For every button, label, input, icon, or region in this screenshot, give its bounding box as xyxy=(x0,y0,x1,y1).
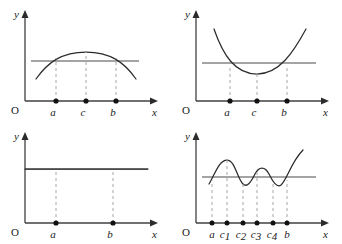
dot-a xyxy=(210,221,215,226)
tick-label-c2: c2 xyxy=(236,228,247,242)
tick-label-b: b xyxy=(284,228,290,240)
tick-label-c1: c1 xyxy=(220,228,230,242)
tick-label-a: a xyxy=(209,228,215,240)
x-axis-label: x xyxy=(322,106,328,118)
dot-b xyxy=(284,98,289,103)
tick-label-c: c xyxy=(81,106,86,118)
mean-value-theorem-figure: O y x a c b O y x a c xyxy=(0,0,342,244)
tick-label-a: a xyxy=(50,228,56,240)
origin-label: O xyxy=(182,104,190,116)
dot-c xyxy=(254,98,259,103)
y-axis-label: y xyxy=(13,130,19,142)
dot-c3 xyxy=(255,221,260,226)
origin-label: O xyxy=(182,226,190,238)
origin-label: O xyxy=(11,104,19,116)
dot-b xyxy=(285,221,290,226)
dot-a xyxy=(53,98,58,103)
tick-label-c: c xyxy=(252,106,257,118)
y-axis-arrowhead xyxy=(22,132,29,140)
tick-label-b: b xyxy=(110,106,116,118)
x-axis-arrowhead xyxy=(150,98,158,105)
y-axis-arrowhead xyxy=(193,132,200,140)
tick-label-c3: c3 xyxy=(251,228,262,242)
tick-label-b: b xyxy=(281,106,287,118)
tick-label-a: a xyxy=(50,106,56,118)
x-axis-arrowhead xyxy=(321,98,329,105)
dot-b xyxy=(110,220,115,225)
tick-label-c4-subscript: 4 xyxy=(272,230,278,242)
x-axis-label: x xyxy=(322,228,328,240)
panel-bottom-right: O y x a c1 c2 c3 c4 b xyxy=(171,122,342,244)
tick-label-a: a xyxy=(224,106,230,118)
y-axis-arrowhead xyxy=(193,10,200,18)
dot-c4 xyxy=(271,221,276,226)
curve-oscillating xyxy=(209,150,303,186)
panel-top-left: O y x a c b xyxy=(0,0,171,122)
curve-upward-parabola xyxy=(214,29,306,74)
tick-label-b: b xyxy=(107,228,113,240)
y-axis-label: y xyxy=(184,130,190,142)
y-axis-label: y xyxy=(13,8,19,20)
tick-label-c1-subscript: 1 xyxy=(225,230,231,242)
y-axis-arrowhead xyxy=(22,10,29,18)
tick-label-c3-subscript: 3 xyxy=(255,230,262,242)
x-axis-arrowhead xyxy=(321,220,329,227)
dot-b xyxy=(113,98,118,103)
x-axis-label: x xyxy=(151,106,157,118)
dot-a xyxy=(227,98,232,103)
panel-bottom-left: O y x a b xyxy=(0,122,171,244)
dot-c xyxy=(83,98,88,103)
origin-label: O xyxy=(11,226,19,238)
dot-c1 xyxy=(225,221,230,226)
y-axis-label: y xyxy=(184,8,190,20)
dot-a xyxy=(53,220,58,225)
tick-label-c4: c4 xyxy=(267,228,278,242)
panel-top-right: O y x a c b xyxy=(171,0,342,122)
x-axis-arrowhead xyxy=(150,220,158,227)
dot-c2 xyxy=(241,221,246,226)
x-axis-label: x xyxy=(151,228,157,240)
tick-label-c2-subscript: 2 xyxy=(241,230,247,242)
